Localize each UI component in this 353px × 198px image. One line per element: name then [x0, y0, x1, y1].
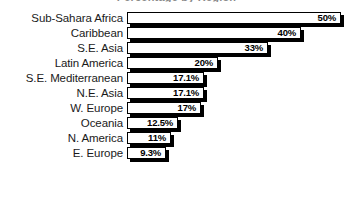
category-label: N. America [0, 132, 127, 145]
bar-track: 40% [127, 27, 353, 42]
bar-track: 17.1% [127, 72, 353, 87]
bar-track: 33% [127, 42, 353, 57]
category-label: S.E. Asia [0, 42, 127, 55]
horizontal-bar-chart: Percentage by Region Sub-Sahara Africa50… [0, 0, 353, 198]
bar: 17% [127, 102, 201, 114]
bar-track: 17% [127, 102, 353, 117]
bar: 9.3% [127, 147, 166, 159]
bar-row: Caribbean40% [0, 27, 353, 42]
bar-value-label: 33% [245, 43, 267, 53]
bar-track: 17.1% [127, 87, 353, 102]
bar-row: N. America11% [0, 132, 353, 147]
bar-row: Latin America20% [0, 57, 353, 72]
bar-track: 50% [127, 12, 353, 27]
category-label: N.E. Asia [0, 87, 127, 100]
bar: 20% [127, 57, 218, 69]
category-label: Latin America [0, 57, 127, 70]
bar-row: W. Europe17% [0, 102, 353, 117]
bar-value-label: 17.1% [173, 88, 203, 98]
bar: 11% [127, 132, 171, 144]
bar-value-label: 9.3% [140, 148, 165, 158]
bar-value-label: 17.1% [173, 73, 203, 83]
category-label: Oceania [0, 117, 127, 130]
bar-track: 9.3% [127, 147, 353, 162]
bar-value-label: 12.5% [147, 118, 177, 128]
bar-value-label: 50% [318, 13, 340, 23]
bar-row: N.E. Asia17.1% [0, 87, 353, 102]
bar-value-label: 17% [178, 103, 200, 113]
category-label: Sub-Sahara Africa [0, 12, 127, 25]
category-label: E. Europe [0, 147, 127, 160]
bar-value-label: 40% [278, 28, 300, 38]
bar: 50% [127, 12, 341, 24]
bar-track: 11% [127, 132, 353, 147]
bar-track: 12.5% [127, 117, 353, 132]
bar-row: Sub-Sahara Africa50% [0, 12, 353, 27]
bar-rows-container: Sub-Sahara Africa50%Caribbean40%S.E. Asi… [0, 12, 353, 162]
category-label: Caribbean [0, 27, 127, 40]
bar: 33% [127, 42, 268, 54]
bar-value-label: 20% [195, 58, 217, 68]
bar-row: S.E. Mediterranean17.1% [0, 72, 353, 87]
bar-value-label: 11% [148, 133, 170, 143]
bar: 40% [127, 27, 301, 39]
category-label: S.E. Mediterranean [0, 72, 127, 85]
bar: 17.1% [127, 72, 204, 84]
category-label: W. Europe [0, 102, 127, 115]
bar-row: E. Europe9.3% [0, 147, 353, 162]
bar: 12.5% [127, 117, 178, 129]
bar-track: 20% [127, 57, 353, 72]
bar: 17.1% [127, 87, 204, 99]
bar-row: Oceania12.5% [0, 117, 353, 132]
chart-title: Percentage by Region [0, 0, 353, 2]
bar-row: S.E. Asia33% [0, 42, 353, 57]
